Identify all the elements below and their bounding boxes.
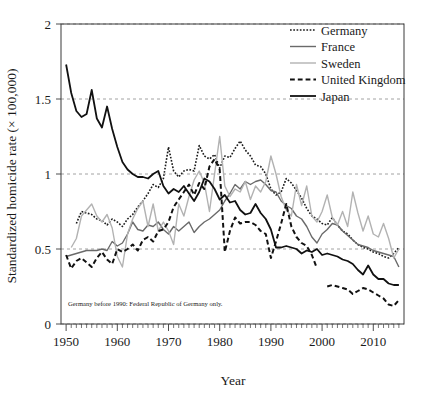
y-tick-label-1.5: 1.5	[35, 92, 51, 107]
series-line-united-kingdom-1	[327, 285, 399, 306]
x-axis-ticks	[66, 324, 399, 331]
legend-label-sweden: Sweden	[321, 57, 361, 71]
x-axis-title: Year	[221, 373, 246, 388]
series-line-united-kingdom	[66, 159, 317, 269]
legend-label-france: France	[321, 40, 355, 54]
y-tick-label-2: 2	[45, 17, 52, 32]
legend-label-united-kingdom: United Kingdom	[321, 73, 406, 87]
homicide-rate-line-chart: 1950196019701980199020002010 00.511.52 G…	[0, 0, 422, 394]
chart-annotation: Germany before 1990: Federal Republic of…	[68, 300, 223, 307]
y-tick-label-0.5: 0.5	[35, 242, 51, 257]
y-axis-tick-labels: 00.511.52	[35, 17, 51, 332]
y-tick-label-0: 0	[45, 317, 52, 332]
x-tick-label-2000: 2000	[309, 334, 335, 349]
legend: GermanyFranceSwedenUnited KingdomJapan	[290, 24, 406, 104]
y-tick-label-1: 1	[45, 167, 52, 182]
chart-canvas: 1950196019701980199020002010 00.511.52 G…	[0, 0, 422, 394]
x-axis-tick-labels: 1950196019701980199020002010	[53, 334, 386, 349]
series-line-germany	[76, 141, 399, 258]
legend-label-germany: Germany	[321, 24, 368, 38]
x-tick-label-1990: 1990	[258, 334, 284, 349]
x-tick-label-1970: 1970	[156, 334, 182, 349]
x-tick-label-2010: 2010	[360, 334, 386, 349]
x-tick-label-1980: 1980	[207, 334, 233, 349]
legend-label-japan: Japan	[321, 90, 350, 104]
x-tick-label-1960: 1960	[104, 334, 130, 349]
x-tick-label-1950: 1950	[53, 334, 79, 349]
y-axis-ticks	[56, 24, 61, 324]
y-axis-title: Standardized homicide rate (× 100,000)	[4, 69, 19, 284]
